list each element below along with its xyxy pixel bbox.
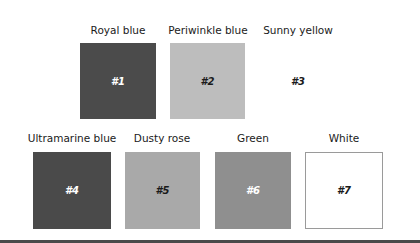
swatch-royal-blue: #1 <box>80 43 156 119</box>
swatch-label-sunny-yellow: Sunny yellow <box>260 24 336 36</box>
swatch-number: #4 <box>65 185 79 196</box>
swatch-number: #2 <box>201 76 215 87</box>
swatch-number: #7 <box>337 185 351 196</box>
swatch-label-green: Green <box>215 132 291 144</box>
swatch-label-dusty-rose: Dusty rose <box>122 132 202 144</box>
swatch-number: #3 <box>291 76 305 87</box>
swatch-label-ultramarine-blue: Ultramarine blue <box>20 132 124 144</box>
swatch-label-royal-blue: Royal blue <box>80 24 156 36</box>
swatch-label-periwinkle-blue: Periwinkle blue <box>160 24 256 36</box>
swatch-sunny-yellow: #3 <box>260 43 336 119</box>
swatch-number: #1 <box>111 76 125 87</box>
swatch-green: #6 <box>215 152 291 229</box>
swatch-dusty-rose: #5 <box>125 152 200 229</box>
swatch-number: #5 <box>156 185 170 196</box>
swatch-white: #7 <box>305 152 383 229</box>
swatch-ultramarine-blue: #4 <box>33 152 111 229</box>
swatch-number: #6 <box>246 185 260 196</box>
swatch-label-white: White <box>305 132 383 144</box>
swatch-periwinkle-blue: #2 <box>170 43 245 119</box>
